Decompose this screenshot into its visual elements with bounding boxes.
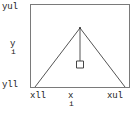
plot-area bbox=[30, 4, 130, 88]
apex-point-marker bbox=[79, 27, 81, 29]
x-axis-variable-label: x i bbox=[68, 92, 74, 108]
y-axis-variable-label: y i bbox=[10, 40, 16, 56]
y-lower-limit-label: yll bbox=[2, 81, 18, 90]
y-axis-variable-subscript: i bbox=[11, 48, 16, 56]
centroid-square-marker bbox=[77, 61, 84, 68]
x-upper-limit-label: xul bbox=[107, 92, 123, 101]
x-lower-limit-label: xll bbox=[30, 92, 46, 101]
x-axis-variable-subscript: i bbox=[69, 100, 74, 108]
figure-container: yul yll xll xul y i x i bbox=[0, 0, 135, 116]
y-upper-limit-label: yul bbox=[2, 3, 18, 12]
